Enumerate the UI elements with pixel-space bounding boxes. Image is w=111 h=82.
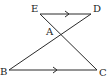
segment-EC [40,14,97,70]
point-label-B: B [0,67,7,77]
point-label-A: A [46,27,53,37]
point-label-C: C [99,68,107,78]
point-label-D: D [93,4,101,14]
segment-DB [9,14,91,70]
geometry-diagram: E D A B C [0,0,111,82]
point-label-E: E [31,4,38,14]
